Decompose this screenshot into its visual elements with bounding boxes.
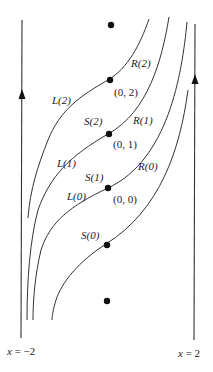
label-R0: R(0) bbox=[137, 160, 158, 173]
label-point-0-2: (0, 2) bbox=[114, 86, 138, 99]
phase-diagram: (0, 2) (0, 1) (0, 0) R(2) L(2) S(2) R(1)… bbox=[0, 0, 213, 372]
label-L1: L(1) bbox=[56, 157, 76, 170]
label-S2: S(2) bbox=[84, 115, 103, 128]
point-bottom bbox=[104, 298, 110, 304]
left-boundary-line bbox=[21, 20, 22, 338]
label-R1: R(1) bbox=[132, 114, 153, 127]
right-arrow-up-icon bbox=[192, 74, 199, 84]
point-s0 bbox=[104, 242, 110, 248]
label-point-0-1: (0, 1) bbox=[113, 138, 137, 151]
label-right-boundary: x = 2 bbox=[177, 347, 200, 359]
label-L2: L(2) bbox=[51, 94, 71, 107]
point-0-2 bbox=[107, 77, 113, 83]
label-left-boundary: x = −2 bbox=[6, 345, 35, 357]
label-R2: R(2) bbox=[130, 57, 151, 70]
point-0-1 bbox=[106, 131, 112, 137]
curve-s0 bbox=[52, 90, 188, 320]
curve-0 bbox=[33, 22, 187, 320]
diagram-canvas: (0, 2) (0, 1) (0, 0) R(2) L(2) S(2) R(1)… bbox=[0, 0, 213, 372]
label-point-0-0: (0, 0) bbox=[113, 193, 137, 206]
point-0-0 bbox=[105, 185, 111, 191]
label-S0: S(0) bbox=[81, 229, 100, 242]
point-top bbox=[108, 22, 114, 28]
label-L0: L(0) bbox=[66, 190, 86, 203]
right-boundary-line bbox=[194, 24, 195, 340]
label-S1: S(1) bbox=[85, 171, 104, 184]
left-arrow-up-icon bbox=[19, 89, 26, 99]
